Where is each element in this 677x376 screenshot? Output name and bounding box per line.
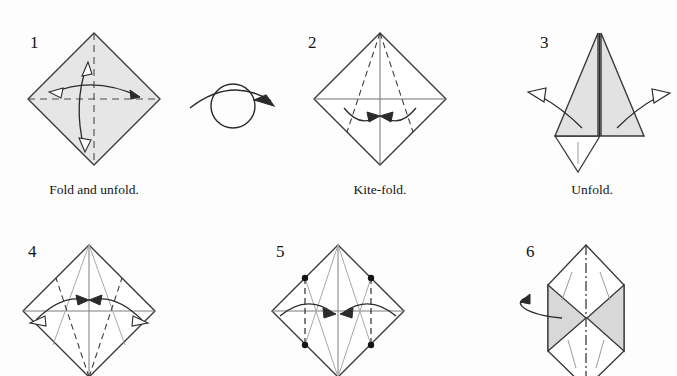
left-flap: [555, 33, 598, 136]
arrowhead-left-hollow: [528, 88, 546, 102]
reference-dot-bottom-left: [302, 342, 308, 348]
roll-arrowhead: [520, 294, 530, 304]
arrowhead-right-hollow: [652, 89, 670, 103]
diagram-sheet: 1 Fold and unfold. 2: [0, 0, 677, 376]
step-1-caption: Fold and unfold.: [14, 182, 174, 198]
step-1-figure: [0, 0, 190, 180]
step-2-caption: Kite-fold.: [300, 182, 460, 198]
reference-dot-top-right: [368, 275, 374, 281]
step-3-figure: [500, 0, 677, 180]
step-2-figure: [248, 0, 448, 180]
reference-dot-top-left: [302, 275, 308, 281]
reference-dot-bottom-right: [368, 342, 374, 348]
step-5-figure: [248, 228, 448, 376]
right-flap: [601, 33, 644, 136]
step-3-caption: Unfold.: [522, 182, 662, 198]
step-6-figure: [500, 228, 677, 376]
step-4-figure: [0, 228, 190, 376]
